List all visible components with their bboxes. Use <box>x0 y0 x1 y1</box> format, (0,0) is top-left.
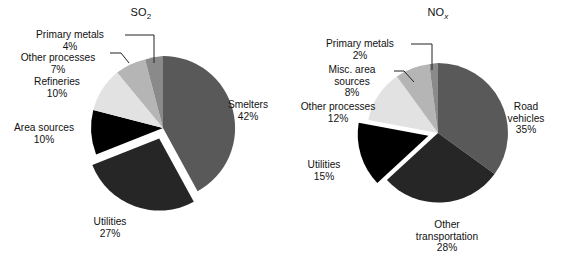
so2-label-smelters-text: Smelters <box>228 99 268 110</box>
so2-label-other-processes-text: Other processes <box>21 52 96 63</box>
nox-label-primary-metals-pct: 2% <box>326 50 394 62</box>
so2-label-other-processes-pct: 7% <box>21 64 96 76</box>
nox-label-primary-metals: Primary metals 2% <box>326 38 394 61</box>
nox-label-misc-area-sources-pct: 8% <box>329 87 376 99</box>
so2-label-utilities-text: Utilities <box>94 216 127 227</box>
so2-leader-other-processes <box>110 53 129 63</box>
nox-label-utilities: Utilities 15% <box>308 159 341 182</box>
so2-label-refineries: Refineries 10% <box>34 76 80 99</box>
nox-label-other-transportation-line2: transportation <box>416 231 478 243</box>
nox-label-road-vehicles: Road vehicles 35% <box>508 101 545 136</box>
nox-label-other-processes-pct: 12% <box>301 113 376 125</box>
so2-label-area-sources-pct: 10% <box>14 134 74 146</box>
two-pie-chart-figure: SO2 Primary metals 4% Other p <box>0 0 564 261</box>
so2-chart-panel: SO2 Primary metals 4% Other p <box>0 0 282 261</box>
so2-label-smelters: Smelters 42% <box>228 99 268 122</box>
nox-label-other-transportation-pct: 28% <box>416 242 478 254</box>
so2-label-refineries-text: Refineries <box>34 76 80 87</box>
so2-label-refineries-pct: 10% <box>34 88 80 100</box>
so2-label-smelters-pct: 42% <box>228 111 268 123</box>
so2-label-other-processes: Other processes 7% <box>21 52 96 75</box>
nox-label-misc-area-sources-line2: sources <box>329 76 376 88</box>
nox-label-other-transportation: Other transportation 28% <box>416 219 478 254</box>
nox-label-misc-area-sources: Misc. area sources 8% <box>329 64 376 99</box>
nox-label-primary-metals-text: Primary metals <box>326 38 394 49</box>
nox-label-other-transportation-line1: Other <box>434 219 459 230</box>
so2-label-area-sources-text: Area sources <box>14 122 74 133</box>
nox-label-utilities-pct: 15% <box>308 171 341 183</box>
nox-chart-panel: NOx Primary metals 2% Misc. area <box>282 0 564 261</box>
so2-label-primary-metals-text: Primary metals <box>36 29 104 40</box>
so2-label-primary-metals: Primary metals 4% <box>36 29 104 52</box>
nox-label-utilities-text: Utilities <box>308 159 341 170</box>
nox-label-road-vehicles-line1: Road <box>514 101 538 112</box>
nox-label-misc-area-sources-line1: Misc. area <box>329 64 376 75</box>
nox-label-other-processes: Other processes 12% <box>301 101 376 124</box>
so2-label-utilities-pct: 27% <box>94 228 127 240</box>
nox-label-road-vehicles-line2: vehicles <box>508 113 545 125</box>
so2-label-utilities: Utilities 27% <box>94 216 127 239</box>
nox-label-other-processes-text: Other processes <box>301 101 376 112</box>
nox-label-road-vehicles-pct: 35% <box>508 124 545 136</box>
so2-label-area-sources: Area sources 10% <box>14 122 74 145</box>
so2-label-primary-metals-pct: 4% <box>36 41 104 53</box>
